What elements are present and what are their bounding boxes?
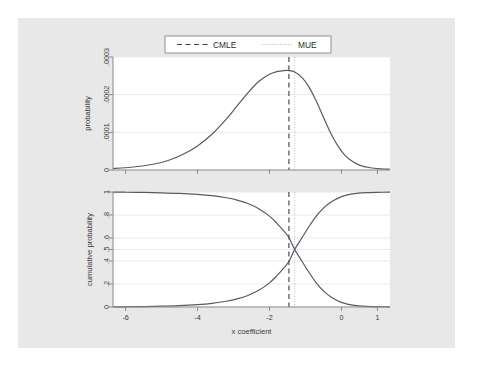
x-tick-label-2: -2 bbox=[266, 313, 272, 322]
chart-panel-bottom: -6-4-2010.2.4.5.6.81cumulative probabili… bbox=[85, 190, 390, 336]
legend-label-mue: MUE bbox=[298, 40, 317, 50]
x-tick-label-0: -6 bbox=[122, 313, 128, 322]
chart-panel-top: 0.0001.0002.0003probability bbox=[83, 48, 390, 174]
statistical-chart-figure: 0.0001.0002.0003probability-6-4-2010.2.4… bbox=[0, 0, 478, 371]
y-tick-label-1: .2 bbox=[102, 281, 111, 287]
chart-canvas: 0.0001.0002.0003probability-6-4-2010.2.4… bbox=[0, 0, 478, 371]
y-tick-label-2: .4 bbox=[102, 258, 111, 264]
y-axis-title-top: probability bbox=[83, 96, 92, 131]
y-tick-label-6: 1 bbox=[102, 190, 111, 194]
y-tick-label-4: .6 bbox=[102, 235, 111, 241]
y-tick-label-0: 0 bbox=[102, 305, 111, 309]
plot-area-background bbox=[113, 57, 390, 170]
y-tick-label-3: .0003 bbox=[102, 48, 111, 66]
y-tick-label-3: .5 bbox=[102, 247, 111, 253]
x-tick-label-3: 0 bbox=[339, 313, 343, 322]
x-axis-title: x coefficient bbox=[232, 327, 273, 336]
chart-legend: CMLEMUE bbox=[165, 36, 331, 53]
x-tick-label-4: 1 bbox=[375, 313, 379, 322]
x-tick-label-1: -4 bbox=[194, 313, 200, 322]
y-tick-label-2: .0002 bbox=[102, 86, 111, 104]
y-axis-title-bottom: cumulative probability bbox=[85, 213, 94, 286]
y-tick-label-5: .8 bbox=[102, 212, 111, 218]
y-tick-label-1: .0001 bbox=[102, 123, 111, 141]
legend-label-cmle: CMLE bbox=[213, 40, 237, 50]
y-tick-label-0: 0 bbox=[102, 168, 111, 172]
